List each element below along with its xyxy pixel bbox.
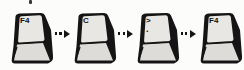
arrow-dots: [118, 32, 127, 34]
key-f4-end: F4: [196, 12, 244, 65]
keycap-icon: [70, 12, 118, 65]
keycap-icon: [196, 12, 244, 65]
key-label: F4: [20, 16, 29, 25]
dotted-arrow-1: [55, 29, 70, 38]
arrow-dots: [55, 32, 64, 34]
keystroke-sequence-diagram: F4 C: [0, 0, 244, 70]
key-c: C: [70, 12, 118, 65]
key-period: > .: [133, 12, 181, 65]
keycap-icon: [7, 12, 55, 65]
keycap-icon: [133, 12, 181, 65]
arrow-dots: [181, 32, 190, 34]
key-label: C: [83, 16, 89, 25]
scan-artifact-mark: [29, 0, 32, 4]
key-f4-start: F4: [7, 12, 55, 65]
key-label: F4: [209, 16, 218, 25]
key-sublabel: .: [146, 26, 149, 32]
dotted-arrow-2: [118, 29, 133, 38]
dotted-arrow-3: [181, 29, 196, 38]
key-sequence-row: F4 C: [0, 0, 244, 65]
